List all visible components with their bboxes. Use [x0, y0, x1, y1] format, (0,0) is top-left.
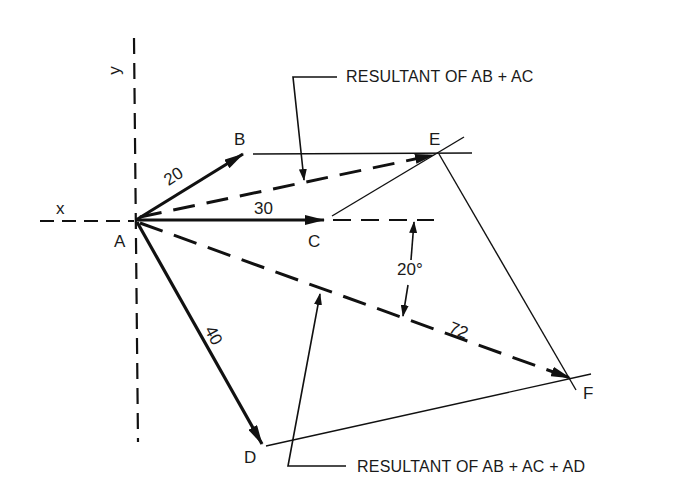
point-e-label: E [429, 131, 440, 148]
point-a-label: A [114, 233, 125, 250]
construct-ce [332, 137, 464, 216]
note-resultant-ab-ac: RESULTANT OF AB + AC [346, 69, 534, 85]
resultant-ae [140, 155, 434, 217]
resultant-af [140, 223, 570, 378]
leader-ab-ac-ad [288, 294, 346, 466]
note-resultant-ab-ac-ad: RESULTANT OF AB + AC + AD [357, 459, 585, 475]
construct-df [266, 374, 591, 446]
construct-ef [439, 154, 576, 390]
vector-ad [137, 222, 262, 444]
point-d-label: D [244, 449, 256, 466]
magnitude-ac: 30 [254, 200, 273, 217]
point-f-label: F [583, 385, 593, 402]
angle-arrow-bottom [403, 285, 408, 316]
point-b-label: B [234, 131, 245, 148]
construct-be [253, 153, 472, 154]
angle-arrow-top [411, 222, 414, 260]
x-axis-label: x [56, 200, 65, 217]
vector-ab [136, 154, 243, 220]
y-axis [134, 38, 138, 442]
angle-label: 20° [397, 261, 423, 278]
y-axis-label: y [106, 66, 123, 75]
leader-ab-ac [293, 77, 337, 180]
point-c-label: C [308, 233, 320, 250]
